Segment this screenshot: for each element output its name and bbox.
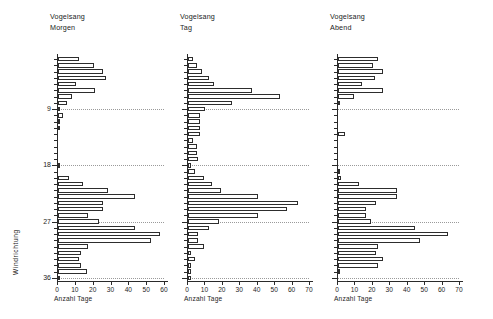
bar <box>338 213 366 218</box>
y-tick-36 <box>332 278 337 279</box>
y-tick-17 <box>334 159 337 160</box>
x-tick-0 <box>337 282 338 285</box>
y-tick-24 <box>334 203 337 204</box>
gridline-9 <box>337 109 459 111</box>
y-tick-3 <box>334 72 337 73</box>
bar <box>338 244 378 249</box>
bar <box>338 76 375 81</box>
bar <box>338 251 376 256</box>
gridline-36 <box>337 278 459 280</box>
x-tick-10 <box>354 282 355 285</box>
x-tick-60 <box>442 282 443 285</box>
y-tick-21 <box>334 184 337 185</box>
y-tick-18 <box>332 165 337 166</box>
bar <box>338 257 383 262</box>
bar <box>338 88 383 93</box>
y-tick-19 <box>334 172 337 173</box>
y-tick-29 <box>334 234 337 235</box>
bar <box>338 94 354 99</box>
y-tick-1 <box>334 59 337 60</box>
x-axis-2 <box>337 281 463 282</box>
bar <box>338 188 397 193</box>
y-tick-35 <box>334 272 337 273</box>
y-tick-34 <box>334 265 337 266</box>
bar <box>338 63 373 68</box>
bar <box>338 219 371 224</box>
bar <box>338 201 376 206</box>
x-tick-label-70: 70 <box>449 286 469 293</box>
y-tick-16 <box>334 153 337 154</box>
y-tick-13 <box>334 134 337 135</box>
bar <box>338 69 383 74</box>
bar <box>338 182 359 187</box>
bar <box>338 132 345 137</box>
bar <box>338 194 397 199</box>
panel-title-2: Vogelsang <box>330 12 365 22</box>
y-tick-9 <box>332 109 337 110</box>
y-tick-33 <box>334 259 337 260</box>
y-tick-31 <box>334 247 337 248</box>
y-tick-30 <box>334 240 337 241</box>
y-tick-25 <box>334 209 337 210</box>
x-tick-20 <box>372 282 373 285</box>
panel-abend: VogelsangAbend010203040506070Anzahl Tage <box>0 0 493 319</box>
bar <box>338 57 378 62</box>
x-tick-50 <box>424 282 425 285</box>
x-axis-caption-2: Anzahl Tage <box>334 295 372 302</box>
y-tick-20 <box>334 178 337 179</box>
bar <box>338 232 448 237</box>
figure-root: VogelsangMorgen9182736Windrichtung010203… <box>0 0 493 319</box>
x-tick-70 <box>459 282 460 285</box>
bar <box>338 169 340 174</box>
y-tick-26 <box>334 215 337 216</box>
bar <box>338 176 341 181</box>
bar <box>338 226 415 231</box>
x-tick-30 <box>389 282 390 285</box>
bar <box>338 269 340 274</box>
bar <box>338 207 366 212</box>
y-tick-15 <box>334 147 337 148</box>
y-tick-2 <box>334 65 337 66</box>
y-tick-12 <box>334 128 337 129</box>
bar <box>338 263 378 268</box>
y-tick-7 <box>334 97 337 98</box>
y-tick-8 <box>334 103 337 104</box>
y-tick-4 <box>334 78 337 79</box>
y-tick-10 <box>334 115 337 116</box>
gridline-18 <box>337 165 459 167</box>
y-tick-32 <box>334 253 337 254</box>
panel-subtitle-2: Abend <box>330 23 352 33</box>
y-tick-14 <box>334 140 337 141</box>
x-tick-40 <box>407 282 408 285</box>
bar <box>338 101 340 106</box>
y-tick-22 <box>334 190 337 191</box>
y-tick-11 <box>334 122 337 123</box>
y-tick-28 <box>334 228 337 229</box>
bar <box>338 82 362 87</box>
y-tick-23 <box>334 197 337 198</box>
y-tick-5 <box>334 84 337 85</box>
y-tick-6 <box>334 90 337 91</box>
bar <box>338 238 420 243</box>
y-tick-27 <box>332 222 337 223</box>
